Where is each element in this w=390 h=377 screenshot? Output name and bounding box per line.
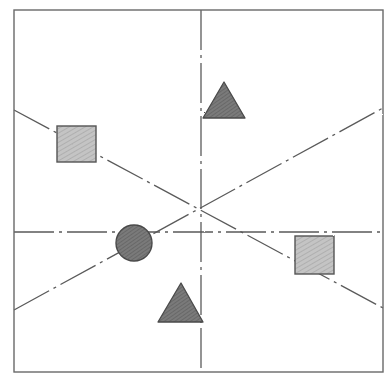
square-lower-right bbox=[295, 236, 334, 274]
sketch-diagram bbox=[0, 0, 390, 377]
circle-left bbox=[116, 225, 152, 261]
square-upper-left bbox=[57, 126, 96, 162]
shapes bbox=[57, 82, 334, 322]
triangle-upper bbox=[203, 82, 245, 118]
diagram-svg bbox=[0, 0, 390, 377]
triangle-lower bbox=[158, 283, 203, 322]
